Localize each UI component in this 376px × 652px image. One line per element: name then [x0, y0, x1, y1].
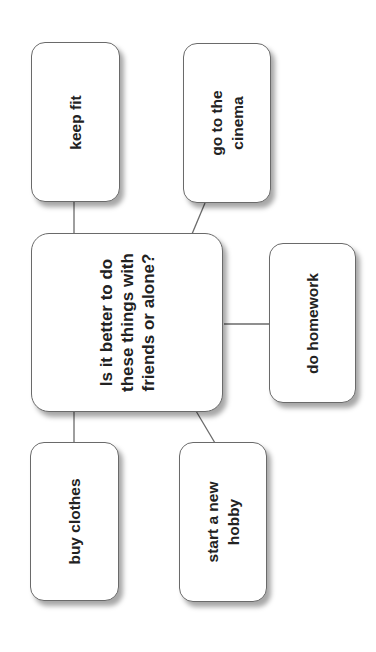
node-label: go to the cinema — [206, 90, 248, 155]
connector-hobby — [196, 411, 215, 443]
node-label: start a new hobby — [202, 482, 244, 563]
node-start-new-hobby: start a new hobby — [179, 442, 267, 602]
node-go-to-cinema: go to the cinema — [183, 43, 271, 203]
node-label: keep fit — [65, 95, 86, 149]
central-question: Is it better to do these things with fri… — [31, 233, 223, 412]
node-do-homework: do homework — [269, 243, 356, 403]
node-label: do homework — [302, 273, 323, 374]
node-keep-fit: keep fit — [31, 42, 120, 202]
node-label: buy clothes — [64, 478, 85, 564]
node-buy-clothes: buy clothes — [30, 442, 119, 601]
central-label: Is it better to do these things with fri… — [96, 253, 159, 392]
connector-cinema — [192, 203, 205, 234]
